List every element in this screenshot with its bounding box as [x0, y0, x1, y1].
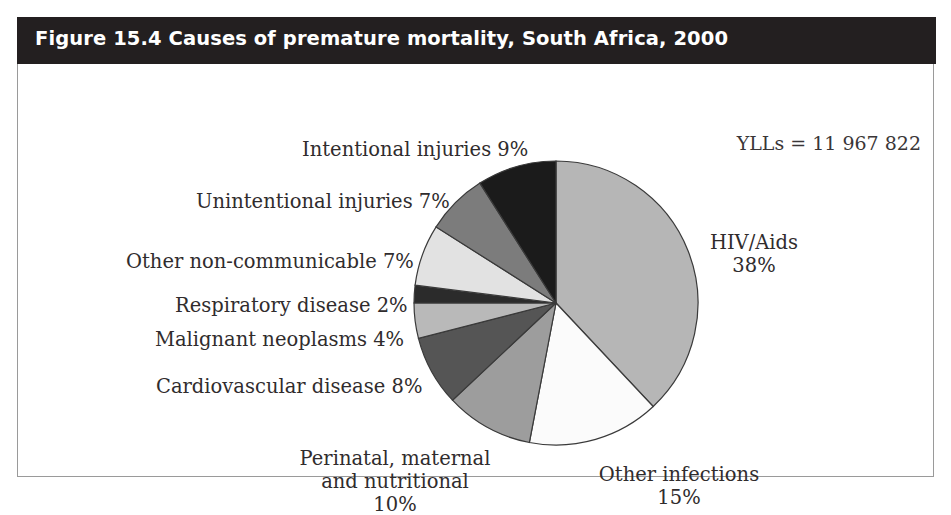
pie-label-perinatal-line2: and nutritional	[295, 470, 495, 493]
pie-label-perinatal-line1: Perinatal, maternal	[295, 447, 495, 470]
pie-chart-svg	[411, 158, 701, 448]
figure-title: Figure 15.4 Causes of premature mortalit…	[35, 27, 728, 50]
pie-label-other-non-communicable: Other non-communicable 7%	[126, 250, 414, 273]
pie-label-respiratory-disease: Respiratory disease 2%	[175, 294, 408, 317]
pie-slice-group	[414, 161, 698, 445]
figure-body: YLLs = 11 967 822 Intentional injuries 9…	[17, 64, 934, 477]
pie-label-hiv-aids-line2: 38%	[694, 254, 814, 277]
pie-chart	[411, 158, 701, 448]
pie-label-perinatal-maternal-nutritional: Perinatal, maternal and nutritional 10%	[295, 447, 495, 515]
figure-panel: Figure 15.4 Causes of premature mortalit…	[17, 17, 936, 479]
pie-label-malignant-neoplasms: Malignant neoplasms 4%	[155, 328, 404, 351]
pie-label-other-infections-line1: Other infections	[574, 463, 784, 486]
pie-label-other-infections-line2: 15%	[574, 486, 784, 509]
pie-label-perinatal-line3: 10%	[295, 493, 495, 515]
pie-label-unintentional-injuries: Unintentional injuries 7%	[196, 190, 450, 213]
pie-label-intentional-injuries: Intentional injuries 9%	[302, 138, 528, 161]
figure-header-bar: Figure 15.4 Causes of premature mortalit…	[17, 17, 936, 64]
yll-total-annotation: YLLs = 11 967 822	[737, 132, 921, 154]
pie-label-hiv-aids-line1: HIV/Aids	[694, 231, 814, 254]
pie-label-hiv-aids: HIV/Aids 38%	[694, 231, 814, 277]
pie-label-other-infections: Other infections 15%	[574, 463, 784, 509]
pie-label-cardiovascular-disease: Cardiovascular disease 8%	[156, 375, 422, 398]
